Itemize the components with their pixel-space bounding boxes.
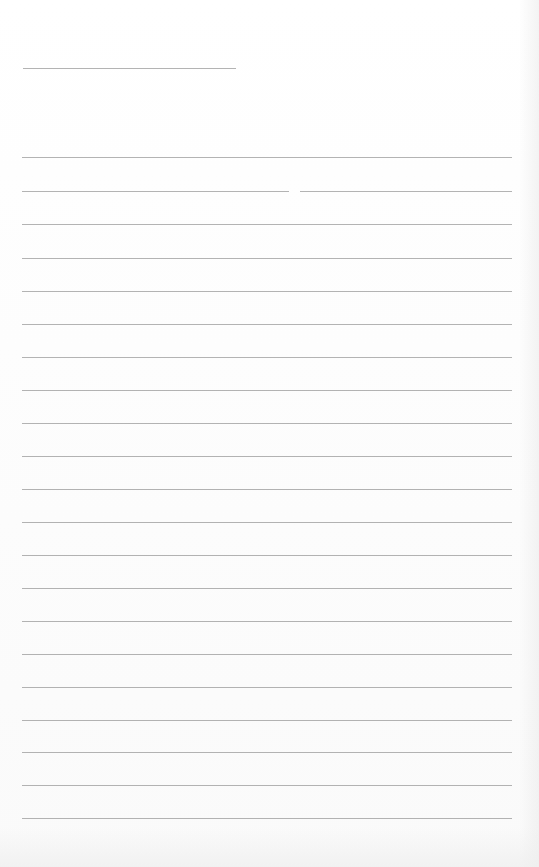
ruled-line	[22, 456, 512, 457]
page-edge-shadow	[519, 0, 539, 867]
ruled-line	[22, 258, 512, 259]
ruled-line	[22, 390, 512, 391]
ruled-line	[22, 191, 289, 192]
ruled-line	[22, 291, 512, 292]
ruled-line	[22, 157, 512, 158]
page-bottom-shadow	[0, 827, 539, 867]
ruled-line	[22, 588, 512, 589]
ruled-line	[22, 720, 512, 721]
ruled-line	[22, 555, 512, 556]
ruled-line	[22, 752, 512, 753]
ruled-line	[300, 191, 512, 192]
ruled-line	[22, 224, 512, 225]
title-rule	[23, 68, 236, 69]
ruled-line	[22, 423, 512, 424]
ruled-line	[22, 324, 512, 325]
lined-paper-sheet	[0, 0, 539, 867]
ruled-line	[22, 522, 512, 523]
ruled-line	[22, 621, 512, 622]
ruled-line	[22, 687, 512, 688]
ruled-line	[22, 489, 512, 490]
ruled-line	[22, 818, 512, 819]
ruled-line	[22, 654, 512, 655]
ruled-line	[22, 357, 512, 358]
ruled-line	[22, 785, 512, 786]
